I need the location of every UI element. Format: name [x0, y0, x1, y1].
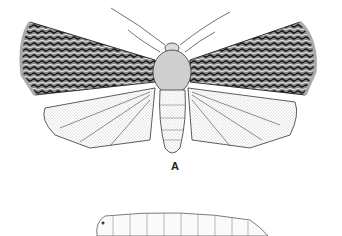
larva	[97, 213, 268, 236]
moth-illustration: A	[0, 0, 342, 236]
moth-drawing	[0, 0, 342, 236]
figure-label: A	[168, 160, 182, 172]
moth-body	[153, 43, 191, 153]
